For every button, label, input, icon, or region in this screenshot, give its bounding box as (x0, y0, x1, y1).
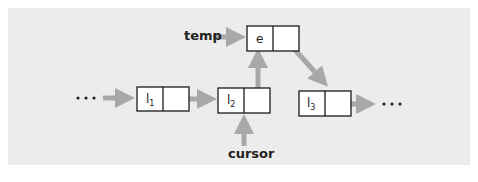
cursor-label: cursor (228, 146, 274, 161)
node-e: e (247, 26, 299, 51)
ellipsis-right-icon (382, 102, 401, 105)
node-l2: l2 (218, 88, 270, 113)
ellipsis-left-icon (76, 96, 95, 99)
node-l3: l3 (299, 91, 351, 116)
node-e-label: e (256, 32, 263, 46)
temp-label: temp (184, 28, 222, 43)
node-l1: l1 (137, 87, 189, 111)
